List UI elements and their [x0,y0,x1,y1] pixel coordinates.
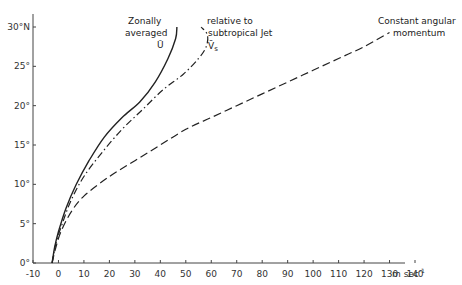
y-tick-label: 30°N [7,22,30,32]
x-tick-label: 80 [256,269,268,279]
x-tick-label: 70 [231,269,243,279]
y-tick-label: 15° [14,140,30,150]
zonal-mean-wind-curve [52,27,177,263]
x-tick-label: 90 [282,269,294,279]
axes: -1001020304050607080901001101201301400°5… [7,14,424,279]
y-tick-label: 5° [20,219,30,229]
x-unit: m sec [392,269,419,279]
x-unit-exponent: -1 [419,267,425,274]
x-tick-label: 30 [129,269,141,279]
cam-annotation-line2: momentum [393,28,445,38]
x-tick-label: 0 [56,269,62,279]
cam-annotation-line1: Constant angular [378,16,456,26]
curves [52,27,389,263]
x-tick-label: 110 [330,269,347,279]
zonal-annotation-symbol: Ū [157,40,164,50]
x-tick-label: 100 [305,269,322,279]
jet-annotation-symbol: V̄s [208,40,218,53]
y-tick-label: 10° [14,179,30,189]
x-tick-label: 60 [206,269,218,279]
y-tick-label: 25° [14,61,30,71]
x-tick-label: 50 [180,269,192,279]
angular-momentum-curve [52,33,389,264]
x-tick-label: 20 [104,269,116,279]
x-tick-label: 120 [355,269,372,279]
jet-annotation-line1: relative to [207,16,253,26]
x-tick-label: 40 [155,269,167,279]
latitude-wind-chart: -1001020304050607080901001101201301400°5… [0,0,462,285]
x-tick-label: 10 [78,269,90,279]
jet-annotation-line2: subtropical Jet [208,28,273,38]
subtropical-jet-curve [52,27,208,263]
zonal-annotation-line1: Zonally [128,16,162,26]
y-tick-label: 0° [20,258,30,268]
x-tick-label: -10 [26,269,41,279]
zonal-annotation-line2: averaged [125,28,168,38]
y-tick-label: 20° [14,101,30,111]
jet-subscript: s [214,45,218,53]
